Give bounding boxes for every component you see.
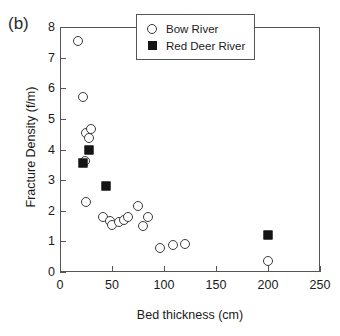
y-tick-label: 4 [48, 143, 55, 157]
x-tick [320, 266, 321, 272]
data-point-bow-river [138, 221, 148, 231]
x-tick [60, 266, 61, 272]
y-tick [60, 180, 66, 181]
x-tick-label: 150 [206, 278, 227, 292]
legend-label: Red Deer River [166, 40, 245, 52]
x-tick-label: 200 [258, 278, 279, 292]
y-tick [60, 211, 66, 212]
plot-frame [60, 27, 320, 272]
y-tick-label: 5 [48, 112, 55, 126]
data-point-red-deer-river [85, 146, 94, 155]
y-tick-label: 7 [48, 51, 55, 65]
data-point-bow-river [78, 92, 88, 102]
data-point-bow-river [263, 256, 273, 266]
x-tick-label: 50 [105, 278, 119, 292]
y-tick [60, 272, 66, 273]
data-point-red-deer-river [78, 159, 87, 168]
data-point-bow-river [168, 240, 178, 250]
y-tick-label: 2 [48, 204, 55, 218]
x-tick-label: 250 [310, 278, 331, 292]
y-tick-label: 1 [48, 234, 55, 248]
y-tick [60, 58, 66, 59]
y-tick [60, 88, 66, 89]
data-point-bow-river [143, 212, 153, 222]
data-point-bow-river [81, 197, 91, 207]
legend-item-red-deer-river: Red Deer River [144, 37, 245, 54]
y-tick-label: 6 [48, 81, 55, 95]
data-point-red-deer-river [101, 181, 110, 190]
y-axis-title: Fracture Density (f/m) [24, 37, 38, 257]
plot-area: 012345678 050100150200250 [60, 27, 320, 272]
data-point-bow-river [84, 133, 94, 143]
y-tick [60, 27, 66, 28]
x-tick-label: 0 [57, 278, 64, 292]
x-tick [112, 266, 113, 272]
legend-label: Bow River [166, 23, 218, 35]
data-point-red-deer-river [264, 230, 273, 239]
data-point-bow-river [73, 36, 83, 46]
y-tick-label: 8 [48, 20, 55, 34]
data-point-bow-river [180, 239, 190, 249]
y-tick-label: 0 [48, 265, 55, 279]
x-tick-label: 100 [154, 278, 175, 292]
figure-panel-b: (b) Fracture Density (f/m) Bed thickness… [0, 0, 340, 336]
data-point-bow-river [155, 243, 165, 253]
data-point-bow-river [123, 212, 133, 222]
x-tick [216, 266, 217, 272]
x-axis-title: Bed thickness (cm) [60, 308, 320, 322]
x-tick [268, 266, 269, 272]
data-point-bow-river [133, 201, 143, 211]
y-tick [60, 119, 66, 120]
x-tick [164, 266, 165, 272]
open-circle-icon [144, 24, 160, 34]
y-tick [60, 150, 66, 151]
y-tick-label: 3 [48, 173, 55, 187]
panel-label: (b) [8, 14, 29, 34]
legend: Bow RiverRed Deer River [136, 14, 255, 60]
filled-square-icon [144, 41, 160, 50]
legend-item-bow-river: Bow River [144, 20, 245, 37]
y-tick [60, 241, 66, 242]
